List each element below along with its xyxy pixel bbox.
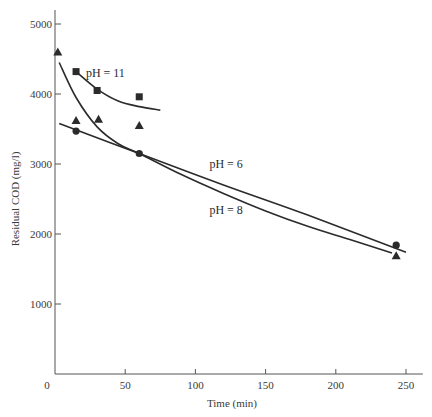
y-tick-label: 5000 — [30, 18, 53, 30]
y-tick-label: 2000 — [30, 228, 53, 240]
square-marker — [136, 93, 143, 100]
circle-marker — [393, 242, 400, 249]
x-tick-label: 50 — [120, 379, 132, 391]
y-tick-label: 1000 — [30, 298, 53, 310]
circle-marker — [136, 150, 143, 157]
x-tick-label: 200 — [328, 379, 345, 391]
curve-label-ph11: pH = 11 — [86, 66, 125, 80]
x-tick-label: 100 — [187, 379, 204, 391]
triangle-marker — [94, 115, 103, 123]
square-marker — [73, 68, 80, 75]
x-tick-label: 150 — [257, 379, 274, 391]
triangle-marker — [72, 116, 81, 124]
y-tick-label: 3000 — [30, 158, 53, 170]
curve-label-ph6: pH = 6 — [209, 157, 242, 171]
x-axis-title: Time (min) — [207, 397, 257, 410]
curve-label-ph8: pH = 8 — [209, 203, 242, 217]
triangle-marker — [392, 251, 401, 259]
fit-curve-ph6 — [59, 123, 406, 252]
triangle-marker — [135, 121, 144, 129]
y-axis-title: Residual COD (mg/l) — [9, 151, 22, 246]
square-marker — [94, 87, 101, 94]
y-tick-label: 4000 — [30, 88, 53, 100]
x-tick-label: 0 — [44, 379, 50, 391]
circle-marker — [72, 128, 79, 135]
chart: 05010015020025010002000300040005000 pH =… — [0, 0, 432, 417]
x-tick-label: 250 — [398, 379, 415, 391]
curve-labels: pH = 11pH = 8pH = 6 — [86, 66, 243, 217]
